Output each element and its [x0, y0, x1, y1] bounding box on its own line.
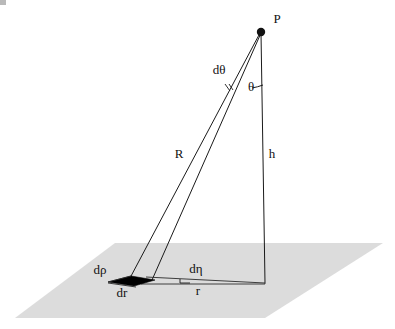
geometry-diagram: P R h r θ dθ dρ dr dη [0, 0, 395, 329]
figure-root: P R h r θ dθ dρ dr dη [0, 0, 395, 329]
label-delta-rho: dρ [94, 262, 107, 277]
slant-range-line-far [152, 33, 261, 280]
label-delta-eta: dη [189, 261, 203, 276]
slant-range-line-near [130, 33, 260, 278]
ground-plane [15, 243, 383, 318]
label-delta-r: dr [117, 285, 129, 300]
label-delta-angle: dθ [213, 62, 226, 77]
apex-point-dot [257, 28, 265, 36]
label-height: h [269, 146, 276, 161]
label-incidence-angle: θ [248, 79, 254, 94]
label-slant-range: R [175, 146, 184, 161]
label-apex-point: P [273, 11, 280, 26]
label-ground-range: r [196, 283, 201, 298]
scan-artifact-speck [0, 0, 6, 5]
